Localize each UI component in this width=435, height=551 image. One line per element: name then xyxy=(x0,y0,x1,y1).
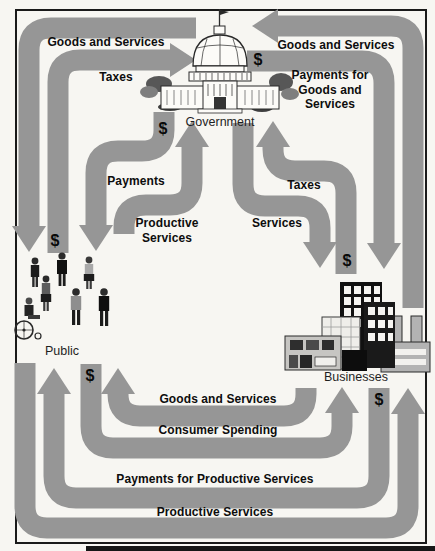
dollar-sign-icon: $ xyxy=(159,121,168,137)
flow-label-businesses-to-gov-taxes: Taxes xyxy=(287,178,321,193)
public-people-illustration xyxy=(15,252,109,339)
flow-label-gov-to-public-goods: Goods and Services xyxy=(47,35,164,50)
person-icon xyxy=(99,288,109,326)
arrowhead-up-icon xyxy=(37,368,71,394)
dollar-sign-icon: $ xyxy=(51,233,60,249)
office-tower-icon xyxy=(364,302,395,368)
flow-label-public-to-gov-productive-services: Productive Services xyxy=(129,216,205,245)
dollar-sign-icon: $ xyxy=(86,368,95,384)
flow-label-gov-to-public-payments: Payments xyxy=(107,174,165,189)
businesses-label: Businesses xyxy=(324,370,388,384)
government-label: Government xyxy=(186,115,255,129)
building-entrance-icon xyxy=(342,350,367,371)
storefront-building-icon xyxy=(285,336,341,370)
flow-label-public-to-gov-taxes: Taxes xyxy=(99,70,133,85)
person-icon xyxy=(41,276,51,311)
arrowhead-up-icon xyxy=(256,121,290,147)
arrowhead-up-icon xyxy=(325,387,359,413)
arrowhead-down-icon xyxy=(12,226,46,252)
arrowhead-up-icon xyxy=(101,368,135,394)
flow-label-gov-to-businesses-services: Services xyxy=(252,216,302,231)
flow-label-public-to-businesses-consumer-spending: Consumer Spending xyxy=(158,423,277,438)
person-icon xyxy=(57,252,67,286)
arrowhead-left-icon xyxy=(252,9,278,43)
dollar-sign-icon: $ xyxy=(375,392,384,408)
circular-flow-diagram: Goods and Services Taxes Payments Produc… xyxy=(0,0,435,551)
scan-edge-shadow xyxy=(86,546,435,551)
arrowhead-down-icon xyxy=(303,242,337,268)
person-icon xyxy=(31,258,39,287)
person-icon xyxy=(71,288,81,325)
person-icon xyxy=(84,257,94,289)
flow-label-businesses-to-public-goods: Goods and Services xyxy=(159,392,276,407)
flow-label-businesses-to-gov-goods: Goods and Services xyxy=(277,38,394,53)
arrowhead-down-icon xyxy=(367,243,401,269)
wheelchair-person-icon xyxy=(15,298,41,339)
dollar-sign-icon: $ xyxy=(343,253,352,269)
flow-label-gov-to-businesses-payments: Payments for Goods and Services xyxy=(283,68,377,112)
flow-label-public-to-businesses-productive-services: Productive Services xyxy=(157,505,274,520)
flow-label-businesses-to-public-payments: Payments for Productive Services xyxy=(116,472,313,487)
dollar-sign-icon: $ xyxy=(254,52,263,68)
arrowhead-up-icon xyxy=(391,388,425,414)
public-label: Public xyxy=(45,344,79,358)
arrowhead-down-icon xyxy=(79,225,113,251)
